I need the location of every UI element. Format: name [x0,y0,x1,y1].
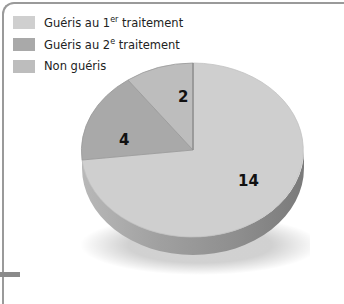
slice-label-not-cured: 2 [178,88,188,106]
slice-label-second-treatment: 4 [119,131,129,149]
slice-label-first-treatment: 14 [238,172,259,190]
